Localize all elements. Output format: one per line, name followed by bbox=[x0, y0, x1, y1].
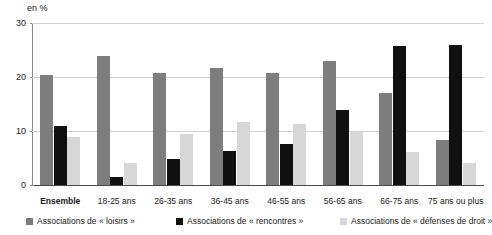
bar bbox=[210, 68, 223, 185]
legend-swatch-icon bbox=[176, 218, 183, 225]
legend-label: Associations de « rencontres » bbox=[187, 216, 303, 226]
y-axis-tick-label: 20 bbox=[0, 73, 26, 82]
bar bbox=[436, 140, 449, 185]
bar bbox=[40, 75, 53, 185]
bar bbox=[153, 73, 166, 185]
y-axis-tick-label: 0 bbox=[0, 181, 26, 190]
bar-group bbox=[258, 23, 315, 185]
legend-item[interactable]: Associations de « défenses de droit » bbox=[340, 216, 492, 226]
bar bbox=[97, 56, 110, 185]
bar bbox=[110, 177, 123, 185]
bar-group bbox=[89, 23, 146, 185]
y-axis-tick-label: 30 bbox=[0, 19, 26, 28]
bar bbox=[124, 163, 137, 185]
bar-group bbox=[145, 23, 202, 185]
bar-group bbox=[371, 23, 428, 185]
bar bbox=[67, 137, 80, 185]
x-axis-line bbox=[32, 185, 484, 186]
bar bbox=[406, 152, 419, 185]
y-axis-tick-label: 10 bbox=[0, 127, 26, 136]
bar bbox=[323, 61, 336, 185]
legend-swatch-icon bbox=[26, 218, 33, 225]
y-axis-unit-label: en % bbox=[27, 3, 48, 14]
bar bbox=[266, 73, 279, 185]
legend-item[interactable]: Associations de « rencontres » bbox=[176, 216, 303, 226]
bar bbox=[223, 151, 236, 185]
bar bbox=[393, 46, 406, 185]
plot-area bbox=[32, 23, 484, 185]
bar bbox=[280, 144, 293, 185]
chart-legend: Associations de « loisirs »Associations … bbox=[0, 216, 486, 230]
x-axis-category-label: 75 ans ou plus bbox=[420, 196, 492, 206]
bar bbox=[379, 93, 392, 185]
bar-group bbox=[428, 23, 485, 185]
legend-label: Associations de « défenses de droit » bbox=[351, 216, 492, 226]
bar-group bbox=[315, 23, 372, 185]
bar bbox=[449, 45, 462, 185]
bar-group bbox=[32, 23, 89, 185]
bar bbox=[293, 124, 306, 185]
bar-group bbox=[202, 23, 259, 185]
legend-item[interactable]: Associations de « loisirs » bbox=[26, 216, 135, 226]
bar bbox=[167, 159, 180, 185]
bar bbox=[54, 126, 67, 185]
legend-label: Associations de « loisirs » bbox=[37, 216, 135, 226]
bar bbox=[350, 132, 363, 185]
bar bbox=[237, 122, 250, 185]
bar bbox=[463, 163, 476, 185]
bar bbox=[336, 110, 349, 185]
legend-swatch-icon bbox=[340, 218, 347, 225]
bar bbox=[180, 134, 193, 185]
y-axis-tick bbox=[30, 185, 34, 186]
